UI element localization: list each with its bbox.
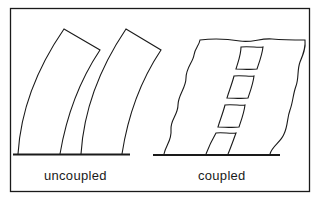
coupled-cell-4 xyxy=(206,133,236,154)
uncoupled-slab-2 xyxy=(81,29,161,154)
uncoupled-label: uncoupled xyxy=(44,168,107,183)
uncoupled-slab-1 xyxy=(18,29,100,154)
uncoupled-panel xyxy=(13,29,161,155)
coupled-label: coupled xyxy=(198,168,246,183)
frame-border xyxy=(11,9,310,192)
coupled-cell-1 xyxy=(236,47,263,70)
coupled-cell-2 xyxy=(227,76,254,99)
coupled-panel xyxy=(153,39,305,155)
coupled-cell-3 xyxy=(218,105,245,128)
